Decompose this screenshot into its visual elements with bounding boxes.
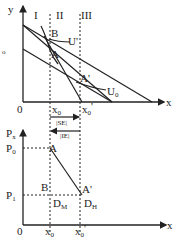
dm-label: DM	[53, 197, 68, 211]
p1-label: P1	[6, 189, 16, 203]
budget-line-new	[23, 25, 152, 102]
bottom-x0-label: x0	[45, 225, 55, 238]
region-label-i: I	[34, 9, 38, 21]
point-b-label: B	[51, 27, 58, 39]
demand-decomposition-diagram: y x 0 o I II III B A A' U' U0 x0 x0' |SE…	[0, 0, 173, 238]
substitution-effect-label: |SE|	[56, 119, 67, 127]
indifference-curve-u-prime	[49, 39, 70, 42]
p0-label: P0	[6, 142, 16, 156]
point-a-prime-label: A'	[80, 72, 90, 84]
x0-label: x0	[52, 103, 62, 117]
x-axis-label: x	[166, 96, 172, 108]
px-axis-label: Px	[6, 127, 16, 141]
bottom-graph: Px x 0 P0 P1 A B A' DM DH x0 x0'	[6, 127, 173, 238]
region-label-iii: III	[81, 9, 92, 21]
dh-label: DH	[84, 197, 97, 211]
origin-label: 0	[17, 103, 23, 115]
stray-mark: o	[2, 48, 6, 56]
effects: |SE| |IE|	[50, 117, 80, 140]
bottom-point-b-label: B	[41, 181, 48, 193]
bottom-point-a-label: A	[49, 142, 57, 154]
region-label-ii: II	[56, 9, 64, 21]
budget-line-compensated	[23, 49, 112, 102]
y-axis-label: y	[8, 3, 14, 15]
point-a-label: A	[51, 48, 59, 60]
income-effect-label: |IE|	[60, 132, 69, 140]
demand-line	[50, 148, 82, 195]
curve-u0-label: U0	[107, 85, 119, 99]
bottom-x-axis-label: x	[167, 219, 173, 231]
curve-u-prime-label: U'	[68, 35, 78, 47]
bottom-point-a-prime-label: A'	[82, 183, 92, 195]
bottom-origin-label: 0	[17, 225, 23, 237]
